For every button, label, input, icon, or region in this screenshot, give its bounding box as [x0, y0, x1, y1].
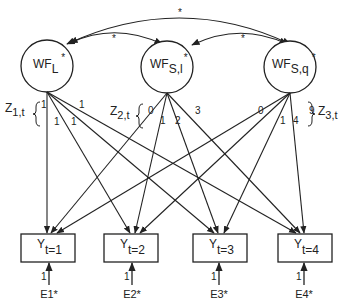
svg-text:Z3,t: Z3,t — [318, 104, 338, 121]
growth-model-diagram: * * * WFL* WFS,l* WFS,q* Z1,t Z2, — [0, 0, 351, 306]
latent-factor-wfsq: WFS,q* — [264, 41, 316, 93]
error-label-4: E4* — [295, 288, 313, 300]
loading-L-2: 1 — [54, 116, 60, 127]
covariance-arc-L-Sq — [67, 18, 290, 44]
z1-label: Z1,t — [5, 101, 40, 126]
cov-label-L-Sq: * — [178, 7, 182, 18]
loading-Sq-2: 1 — [280, 115, 286, 126]
svg-text:Z2,t: Z2,t — [110, 104, 130, 121]
observed-y2: Yt=2 — [104, 234, 158, 262]
loading-L-4: 1 — [79, 99, 85, 110]
z2-label: Z2,t — [110, 104, 143, 128]
svg-text:Z1,t: Z1,t — [5, 101, 25, 118]
loading-Sq-4: 9 — [309, 105, 315, 116]
error-path-4: 1 — [296, 271, 302, 282]
error-path-2: 1 — [124, 271, 130, 282]
observed-y1: Yt=1 — [21, 234, 75, 262]
observed-y4: Yt=4 — [278, 234, 332, 262]
latent-factor-wfsl: WFS,l* — [141, 41, 193, 93]
loading-L-1: 1 — [41, 99, 47, 110]
error-label-1: E1* — [40, 288, 58, 300]
error-path-3: 1 — [211, 271, 217, 282]
loading-Sl-1: 0 — [148, 105, 154, 116]
latent-factor-wfl: WFL* — [21, 40, 73, 92]
loading-L-3: 1 — [71, 116, 77, 127]
error-label-2: E2* — [123, 288, 141, 300]
cov-label-Sl-Sq: * — [241, 33, 245, 44]
loadings-wfsq — [57, 93, 304, 233]
loading-Sl-4: 3 — [195, 105, 201, 116]
loading-Sl-3: 2 — [175, 115, 181, 126]
covariance-arc-L-Sl — [70, 33, 162, 44]
loading-Sq-3: 4 — [293, 115, 299, 126]
loading-Sq-1: 0 — [258, 105, 264, 116]
observed-y3: Yt=3 — [193, 234, 247, 262]
error-path-1: 1 — [41, 271, 47, 282]
loading-Sl-2: 1 — [160, 115, 166, 126]
cov-label-L-Sl: * — [112, 33, 116, 44]
covariance-arc-Sl-Sq — [192, 33, 287, 45]
error-label-3: E3* — [210, 288, 228, 300]
